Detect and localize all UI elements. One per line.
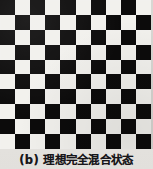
- board-cell: [0, 119, 15, 134]
- board-cell: [0, 15, 15, 30]
- board-cell: [91, 134, 106, 149]
- figure-caption-text: (b) 理想完全混合状态: [19, 151, 133, 167]
- board-cell: [91, 30, 106, 45]
- board-cell: [15, 134, 30, 149]
- board-cell: [136, 104, 151, 119]
- board-right-margin: [151, 0, 153, 149]
- board-cell: [45, 74, 60, 89]
- board-cell: [0, 89, 15, 104]
- board-cell: [30, 89, 45, 104]
- board-cell: [136, 89, 151, 104]
- board-cell: [106, 74, 121, 89]
- board-cell: [15, 119, 30, 134]
- board-cell: [106, 89, 121, 104]
- board-cell: [0, 45, 15, 60]
- checkerboard-image: [0, 0, 151, 149]
- board-cell: [91, 15, 106, 30]
- board-cell: [30, 0, 45, 15]
- board-cell: [60, 104, 75, 119]
- board-cell: [76, 89, 91, 104]
- board-cell: [45, 45, 60, 60]
- board-cell: [60, 30, 75, 45]
- board-cell: [76, 0, 91, 15]
- board-cell: [15, 104, 30, 119]
- board-cell: [136, 30, 151, 45]
- board-cell: [136, 74, 151, 89]
- board-cell: [121, 134, 136, 149]
- figure-caption: (b) 理想完全混合状态: [0, 149, 153, 169]
- board-cell: [76, 30, 91, 45]
- board-cell: [45, 104, 60, 119]
- board-cell: [76, 74, 91, 89]
- board-cell: [106, 45, 121, 60]
- board-cell: [30, 134, 45, 149]
- board-cell: [136, 45, 151, 60]
- board-cell: [136, 60, 151, 75]
- board-cell: [60, 134, 75, 149]
- board-cell: [45, 134, 60, 149]
- board-cell: [0, 134, 15, 149]
- board-cell: [30, 60, 45, 75]
- board-cell: [106, 15, 121, 30]
- board-cell: [106, 104, 121, 119]
- board-cell: [45, 15, 60, 30]
- board-cell: [136, 134, 151, 149]
- board-cell: [121, 0, 136, 15]
- board-cell: [15, 30, 30, 45]
- board-cell: [76, 134, 91, 149]
- board-cell: [121, 89, 136, 104]
- board-cell: [60, 0, 75, 15]
- board-cell: [45, 30, 60, 45]
- board-cell: [0, 74, 15, 89]
- board-cell: [0, 60, 15, 75]
- board-cell: [76, 60, 91, 75]
- board-cell: [45, 60, 60, 75]
- board-cell: [106, 30, 121, 45]
- board-cell: [60, 45, 75, 60]
- board-cell: [76, 45, 91, 60]
- board-cell: [30, 104, 45, 119]
- board-cell: [106, 60, 121, 75]
- board-cell: [91, 74, 106, 89]
- board-cell: [15, 60, 30, 75]
- board-cell: [121, 45, 136, 60]
- board-cell: [76, 119, 91, 134]
- board-cell: [0, 30, 15, 45]
- board-cell: [0, 0, 15, 15]
- board-cell: [30, 119, 45, 134]
- board-cell: [60, 60, 75, 75]
- board-cell: [136, 0, 151, 15]
- board-cell: [0, 104, 15, 119]
- board-cell: [91, 89, 106, 104]
- board-cell: [60, 119, 75, 134]
- board-cell: [45, 119, 60, 134]
- board-cell: [91, 45, 106, 60]
- board-cell: [121, 30, 136, 45]
- board-cell: [15, 15, 30, 30]
- board-cell: [30, 74, 45, 89]
- board-cell: [91, 119, 106, 134]
- board-cell: [15, 74, 30, 89]
- board-cell: [30, 45, 45, 60]
- board-cell: [121, 104, 136, 119]
- board-cell: [121, 15, 136, 30]
- figure-panel: (b) 理想完全混合状态: [0, 0, 153, 169]
- board-cell: [136, 119, 151, 134]
- board-cell: [60, 74, 75, 89]
- board-cell: [106, 134, 121, 149]
- board-cell: [91, 104, 106, 119]
- board-cell: [106, 0, 121, 15]
- board-cell: [76, 104, 91, 119]
- board-cell: [30, 15, 45, 30]
- board-cell: [60, 89, 75, 104]
- board-cell: [106, 119, 121, 134]
- board-cell: [15, 0, 30, 15]
- board-cell: [76, 15, 91, 30]
- board-cell: [91, 60, 106, 75]
- board-cell: [45, 89, 60, 104]
- board-cell: [30, 30, 45, 45]
- board-cell: [136, 15, 151, 30]
- board-cell: [121, 119, 136, 134]
- board-cell: [121, 74, 136, 89]
- board-cell: [15, 45, 30, 60]
